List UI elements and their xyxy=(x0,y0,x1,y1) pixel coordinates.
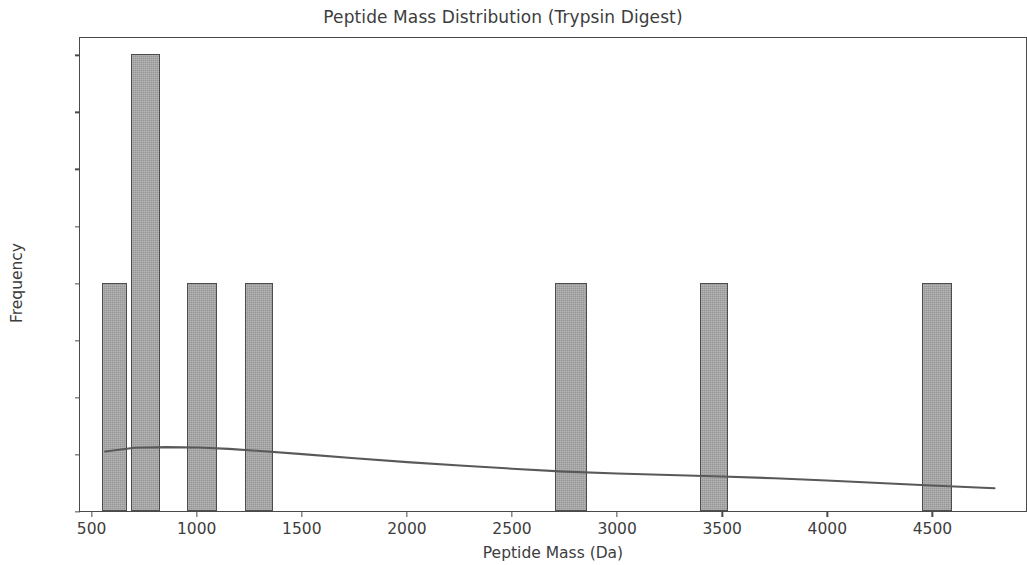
histogram-bar xyxy=(922,283,952,511)
histogram-bars xyxy=(80,38,1026,511)
y-axis-label: Frequency xyxy=(8,223,26,343)
chart-title: Peptide Mass Distribution (Trypsin Diges… xyxy=(0,7,1006,27)
x-tick-label: 2000 xyxy=(387,520,426,538)
x-tick-label: 3500 xyxy=(702,520,741,538)
x-tick-mark xyxy=(722,512,723,517)
x-tick-mark xyxy=(511,512,512,517)
x-tick-mark xyxy=(301,512,302,517)
x-tick-mark xyxy=(827,512,828,517)
x-tick-mark xyxy=(91,512,92,517)
y-tick-mark xyxy=(75,511,80,512)
x-tick-mark xyxy=(932,512,933,517)
histogram-bar xyxy=(700,283,728,511)
x-tick-label: 4000 xyxy=(808,520,847,538)
x-tick-label: 4500 xyxy=(913,520,952,538)
histogram-bar xyxy=(131,54,160,511)
histogram-bar xyxy=(187,283,217,511)
y-tick-mark xyxy=(75,55,80,56)
y-tick-mark xyxy=(75,169,80,170)
histogram-bar xyxy=(555,283,587,511)
x-tick-label: 3000 xyxy=(597,520,636,538)
x-tick-label: 500 xyxy=(77,520,107,538)
y-tick-mark xyxy=(75,112,80,113)
x-tick-label: 1500 xyxy=(282,520,321,538)
y-tick-mark xyxy=(75,454,80,455)
x-tick-label: 2500 xyxy=(492,520,531,538)
x-axis-label: Peptide Mass (Da) xyxy=(79,544,1027,562)
x-tick-label: 1000 xyxy=(177,520,216,538)
y-tick-mark xyxy=(75,397,80,398)
histogram-bar xyxy=(245,283,273,511)
x-tick-mark xyxy=(196,512,197,517)
y-tick-mark xyxy=(75,283,80,284)
y-tick-mark xyxy=(75,340,80,341)
plot-area xyxy=(79,37,1027,512)
y-tick-mark xyxy=(75,226,80,227)
x-tick-mark xyxy=(616,512,617,517)
histogram-bar xyxy=(102,283,127,511)
x-tick-mark xyxy=(406,512,407,517)
